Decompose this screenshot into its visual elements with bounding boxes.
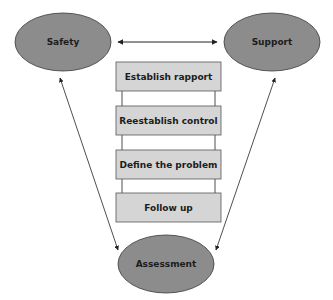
step-establish-rapport: Establish rapport	[116, 62, 221, 91]
svg-text:Reestablish control: Reestablish control	[119, 116, 217, 126]
safety-label: Safety	[47, 37, 80, 47]
safety-node: Safety	[15, 13, 111, 71]
svg-text:Define the problem: Define the problem	[120, 160, 218, 170]
svg-text:Establish rapport: Establish rapport	[125, 72, 213, 82]
support-node: Support	[224, 13, 320, 71]
step-reestablish-control: Reestablish control	[116, 106, 221, 135]
safety-assessment-arrow	[60, 78, 118, 250]
assessment-label: Assessment	[136, 259, 197, 269]
step-connectors	[122, 85, 215, 199]
assessment-node: Assessment	[118, 235, 214, 293]
support-assessment-arrow	[216, 78, 275, 250]
support-label: Support	[252, 37, 293, 47]
step-define-problem: Define the problem	[116, 150, 221, 179]
crisis-model-diagram: Safety Support Assessment Establish rapp…	[0, 0, 333, 300]
svg-text:Follow up: Follow up	[144, 203, 193, 213]
step-follow-up: Follow up	[116, 193, 221, 222]
